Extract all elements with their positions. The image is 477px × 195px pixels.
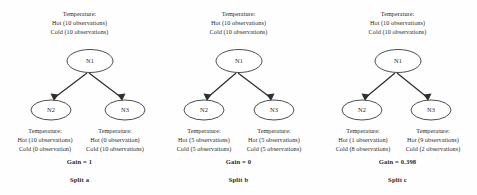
node-n1-label: N1: [394, 57, 402, 64]
root-hot-line: Hot (10 observations): [318, 18, 477, 27]
node-n3-label: N3: [270, 106, 278, 113]
split-caption-b: Split b: [159, 176, 318, 183]
root-attribute-line: Temperature:: [318, 9, 477, 18]
node-n2-label: N2: [358, 106, 366, 113]
right-child-cold-line: Cold (5 observations): [233, 144, 315, 153]
edge-root-to-right: [89, 73, 122, 98]
edge-root-to-left: [207, 73, 236, 98]
root-node-label-a: Temperature: Hot (10 observations) Cold …: [0, 9, 159, 36]
right-child-attribute-line: Temperature:: [392, 126, 474, 135]
right-child-attribute-line: Temperature:: [74, 126, 156, 135]
right-child-cold-line: Cold (10 observations): [74, 144, 156, 153]
tree-graph-c: N1 N2 N3: [318, 44, 477, 124]
right-child-hot-line: Hot (9 observations): [392, 135, 474, 144]
edge-root-to-right: [397, 73, 428, 98]
right-child-label-a: Temperature: Hot (0 observation) Cold (1…: [74, 126, 156, 153]
node-n3-label: N3: [121, 106, 129, 113]
root-cold-line: Cold (10 observations): [159, 27, 318, 36]
tree-graph-b: N1 N2 N3: [159, 44, 318, 124]
root-attribute-line: Temperature:: [0, 9, 159, 18]
root-attribute-line: Temperature:: [159, 9, 318, 18]
split-diagram-a: Temperature: Hot (10 observations) Cold …: [0, 0, 159, 195]
node-n1-label: N1: [86, 57, 94, 64]
right-child-cold-line: Cold (2 observations): [392, 144, 474, 153]
right-child-hot-line: Hot (0 observation): [74, 135, 156, 144]
root-cold-line: Cold (10 observations): [0, 27, 159, 36]
right-child-attribute-line: Temperature:: [233, 126, 315, 135]
root-hot-line: Hot (10 observations): [159, 18, 318, 27]
right-child-label-c: Temperature: Hot (9 observations) Cold (…: [392, 126, 474, 153]
node-n3-label: N3: [427, 106, 435, 113]
split-diagram-b: Temperature: Hot (10 observations) Cold …: [159, 0, 318, 195]
gain-label-a: Gain = 1: [0, 158, 159, 165]
node-n2-label: N2: [47, 106, 55, 113]
node-n2-label: N2: [200, 106, 208, 113]
root-node-label-b: Temperature: Hot (10 observations) Cold …: [159, 9, 318, 36]
decision-tree-figure: Temperature: Hot (10 observations) Cold …: [0, 0, 477, 195]
split-caption-c: Split c: [318, 176, 477, 183]
edge-root-to-left: [365, 73, 395, 98]
root-hot-line: Hot (10 observations): [0, 18, 159, 27]
split-caption-a: Split a: [0, 176, 159, 183]
right-child-hot-line: Hot (5 observations): [233, 135, 315, 144]
gain-label-b: Gain = 0: [159, 158, 318, 165]
node-n1-label: N1: [235, 57, 243, 64]
root-node-label-c: Temperature: Hot (10 observations) Cold …: [318, 9, 477, 36]
gain-label-c: Gain = 0.398: [318, 158, 477, 165]
edge-root-to-right: [238, 73, 271, 98]
tree-graph-a: N1 N2 N3: [0, 44, 159, 124]
right-child-label-b: Temperature: Hot (5 observations) Cold (…: [233, 126, 315, 153]
edge-root-to-left: [54, 73, 87, 98]
split-diagram-c: Temperature: Hot (10 observations) Cold …: [318, 0, 477, 195]
root-cold-line: Cold (10 observations): [318, 27, 477, 36]
